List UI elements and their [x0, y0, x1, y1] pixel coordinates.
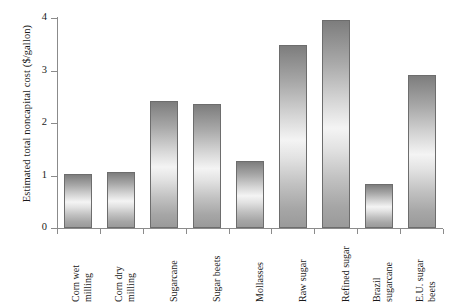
x-axis-label-line: Refined sugar	[340, 246, 352, 302]
x-axis-label: Sugar beets	[193, 236, 223, 306]
x-axis-label-line: Mollasses	[254, 262, 266, 302]
x-axis-label-line: Sugar beets	[211, 256, 223, 302]
x-axis-label: Refined sugar	[322, 236, 352, 306]
x-axis-line	[57, 228, 443, 229]
x-axis-label: Corn wetmilling	[64, 236, 94, 306]
x-axis-label-line: Corn wet	[70, 265, 82, 302]
x-axis-label-line: E.U. sugar	[414, 260, 426, 303]
x-tick-mark	[143, 229, 144, 234]
y-axis-line	[57, 17, 58, 229]
x-tick-mark	[100, 229, 101, 234]
bar	[150, 101, 178, 228]
x-tick-mark	[443, 229, 444, 234]
y-axis-title: Estimated total noncapital cost ($/gallo…	[21, 14, 32, 214]
x-axis-label: Corn drymilling	[107, 236, 137, 306]
x-tick-mark	[229, 229, 230, 234]
bar	[322, 20, 350, 228]
x-axis-label-line: sugarcane	[383, 262, 395, 302]
x-axis-label-line: milling	[82, 273, 94, 302]
bar	[408, 75, 436, 228]
x-axis-label-line: Raw sugar	[297, 260, 309, 303]
x-tick-mark	[314, 229, 315, 234]
x-axis-label: E.U. sugarbeets	[408, 236, 438, 306]
x-axis-label-line: milling	[125, 273, 137, 302]
x-axis-label: Mollasses	[236, 236, 266, 306]
y-tick-mark	[51, 71, 57, 72]
x-tick-mark	[357, 229, 358, 234]
x-tick-mark	[186, 229, 187, 234]
x-axis-label-line: Corn dry	[113, 266, 125, 302]
bar	[236, 161, 264, 228]
y-tick-label: 1	[23, 170, 47, 181]
bar-chart: Estimated total noncapital cost ($/gallo…	[0, 0, 463, 307]
bar	[107, 172, 135, 228]
x-axis-label-line: Sugarcane	[168, 260, 180, 302]
x-axis-label: Sugarcane	[150, 236, 180, 306]
x-axis-label-line: beets	[426, 281, 438, 302]
y-tick-mark	[51, 18, 57, 19]
y-tick-label: 2	[23, 117, 47, 128]
bar	[279, 45, 307, 228]
x-tick-mark	[57, 229, 58, 234]
y-tick-label: 4	[23, 12, 47, 23]
bar	[365, 184, 393, 228]
bar	[64, 174, 92, 228]
x-tick-mark	[400, 229, 401, 234]
y-tick-label: 3	[23, 65, 47, 76]
x-tick-mark	[271, 229, 272, 234]
y-tick-mark	[51, 123, 57, 124]
x-axis-label-line: Brazil	[371, 278, 383, 302]
bar	[193, 104, 221, 228]
y-tick-mark	[51, 176, 57, 177]
x-axis-label: Brazilsugarcane	[365, 236, 395, 306]
y-tick-label: 0	[23, 222, 47, 233]
x-axis-label: Raw sugar	[279, 236, 309, 306]
